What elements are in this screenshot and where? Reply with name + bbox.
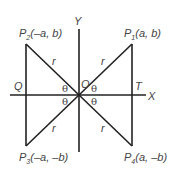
radius-p3 — [26, 95, 79, 146]
point-p2-label: P2(–a, b) — [19, 27, 62, 41]
angle-theta-lower-left: θ — [62, 96, 68, 107]
point-p1-label: P1(a, b) — [124, 27, 161, 41]
x-axis-label: X — [147, 90, 156, 102]
origin-label: O — [81, 78, 90, 90]
angle-theta-upper-right: θ — [91, 83, 97, 94]
point-t-label: T — [135, 80, 143, 92]
point-p4-label: P4(a, –b) — [124, 151, 167, 165]
radius-p4 — [79, 95, 132, 146]
angle-theta-lower-right: θ — [91, 96, 97, 107]
point-q-label: Q — [14, 80, 23, 92]
radius-p2 — [26, 44, 79, 95]
radius-label-p3: r — [52, 122, 57, 134]
radius-label-p1: r — [101, 55, 106, 67]
radius-label-p2: r — [52, 55, 57, 67]
y-axis-label: Y — [74, 15, 82, 27]
angle-theta-upper-left: θ — [62, 83, 68, 94]
radius-label-p4: r — [101, 122, 106, 134]
point-p3-label: P3(–a, –b) — [19, 151, 68, 165]
coordinate-diagram: Y X O Q T P2(–a, b) P1(a, b) P3(–a, –b) … — [0, 0, 170, 173]
